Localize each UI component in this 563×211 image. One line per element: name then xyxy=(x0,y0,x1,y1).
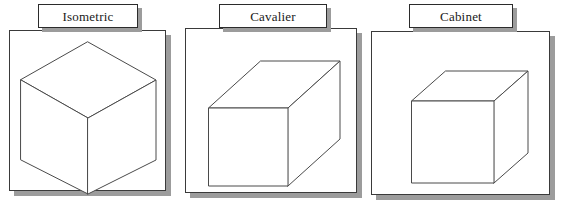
label-box-cabinet: Cabinet xyxy=(409,4,513,28)
panel-cabinet xyxy=(371,31,550,195)
projection-comparison-figure: Isometric Cavalier Cabinet xyxy=(0,0,563,211)
cabinet-cube-drawing xyxy=(372,32,551,196)
label-box-isometric: Isometric xyxy=(38,4,138,28)
panel-cavalier xyxy=(185,28,357,193)
label-cabinet: Cabinet xyxy=(440,10,482,23)
label-cavalier: Cavalier xyxy=(250,10,296,23)
isometric-cube-drawing xyxy=(10,31,167,192)
cabinet-front-face xyxy=(412,101,494,183)
label-isometric: Isometric xyxy=(63,10,114,23)
panel-isometric xyxy=(9,30,166,191)
cavalier-front-face xyxy=(209,108,288,186)
cavalier-cube-drawing xyxy=(186,29,358,194)
label-box-cavalier: Cavalier xyxy=(219,4,327,28)
